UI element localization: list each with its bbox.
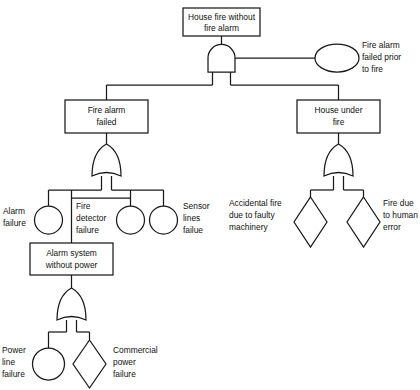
- fire-alarm-prior-label-line3: to fire: [362, 64, 383, 74]
- human-error-label-line1: Fire due: [383, 198, 414, 208]
- node-top-event[interactable]: House fire without fire alarm: [183, 8, 260, 36]
- and-gate-shape[interactable]: [208, 44, 235, 72]
- node-house-under-fire[interactable]: House under fire: [297, 100, 380, 133]
- fire-alarm-prior-label-line2: failed prior: [362, 52, 401, 62]
- sensor-lines-label-line1: Sensor: [183, 201, 210, 211]
- alarm-system-power-label-line1: Alarm system: [46, 248, 97, 258]
- node-accidental-fire[interactable]: Accidental fire due to faulty machinery: [229, 197, 327, 247]
- commercial-power-label-line1: Commercial: [113, 345, 158, 355]
- fault-tree-canvas: House fire without fire alarm Fire alarm…: [0, 0, 420, 390]
- commercial-power-label-line3: failure: [113, 369, 136, 379]
- fire-detector-failure-label-line3: failure: [76, 225, 99, 235]
- fire-alarm-prior-ellipse[interactable]: [315, 44, 359, 72]
- connector-wires: [49, 36, 364, 348]
- commercial-power-label-line2: power: [113, 357, 136, 367]
- human-error-label-line2: to human: [383, 210, 418, 220]
- node-alarm-failure[interactable]: Alarm failure: [3, 206, 63, 234]
- fire-detector-failure-label-line2: detector: [76, 213, 106, 223]
- top-event-label-line2: fire alarm: [204, 23, 239, 33]
- or-gate-shape-alarm-power[interactable]: [57, 288, 86, 320]
- sensor-lines-label-line3: failue: [183, 225, 203, 235]
- or-gate-shape-house-fire[interactable]: [324, 144, 353, 176]
- human-error-diamond[interactable]: [347, 197, 380, 247]
- accidental-fire-label-line2: due to faulty: [229, 210, 275, 220]
- alarm-failure-label-line2: failure: [3, 218, 26, 228]
- fault-tree-diagram: House fire without fire alarm Fire alarm…: [0, 0, 420, 390]
- node-power-line-failure[interactable]: Power line failure: [2, 345, 65, 380]
- gate-house-fire-or[interactable]: [324, 144, 353, 176]
- power-line-failure-label-line1: Power: [2, 345, 26, 355]
- alarm-failure-circle[interactable]: [35, 206, 63, 234]
- gate-fire-alarm-or[interactable]: [92, 144, 121, 176]
- or-gate-shape-fire-alarm[interactable]: [92, 144, 121, 176]
- commercial-power-failure-diamond[interactable]: [73, 340, 106, 388]
- accidental-fire-label-line1: Accidental fire: [229, 198, 282, 208]
- node-alarm-system-without-power[interactable]: Alarm system without power: [30, 243, 113, 275]
- node-fire-due-to-human-error[interactable]: Fire due to human error: [347, 197, 418, 247]
- gate-alarm-power-or[interactable]: [57, 288, 86, 320]
- house-under-fire-label-line2: fire: [333, 117, 345, 127]
- house-under-fire-label-line1: House under: [315, 105, 363, 115]
- alarm-failure-label-line1: Alarm: [3, 206, 25, 216]
- sensor-lines-failue-circle[interactable]: [150, 206, 178, 234]
- gate-top-and[interactable]: [208, 44, 235, 72]
- node-fire-alarm-failed[interactable]: Fire alarm failed: [65, 100, 148, 133]
- node-fire-alarm-failed-prior[interactable]: Fire alarm failed prior to fire: [315, 40, 401, 74]
- power-line-failure-label-line2: line: [2, 357, 15, 367]
- accidental-fire-diamond[interactable]: [294, 197, 327, 247]
- fire-alarm-failed-label-line2: failed: [96, 117, 116, 127]
- sensor-lines-label-line2: lines: [183, 213, 200, 223]
- top-event-label-line1: House fire without: [188, 12, 256, 22]
- node-commercial-power-failure[interactable]: Commercial power failure: [73, 340, 158, 388]
- node-sensor-lines-failue[interactable]: Sensor lines failue: [150, 201, 210, 235]
- power-line-failure-label-line3: failure: [2, 369, 25, 379]
- power-line-failure-circle[interactable]: [33, 348, 65, 380]
- node-fire-detector-failure[interactable]: Fire detector failure: [76, 201, 145, 235]
- fire-detector-failure-circle[interactable]: [117, 206, 145, 234]
- alarm-system-power-label-line2: without power: [45, 260, 98, 270]
- accidental-fire-label-line3: machinery: [229, 222, 268, 232]
- fire-alarm-failed-label-line1: Fire alarm: [88, 105, 126, 115]
- fire-detector-failure-label-line1: Fire: [76, 201, 91, 211]
- fire-alarm-prior-label-line1: Fire alarm: [362, 40, 400, 50]
- human-error-label-line3: error: [383, 222, 401, 232]
